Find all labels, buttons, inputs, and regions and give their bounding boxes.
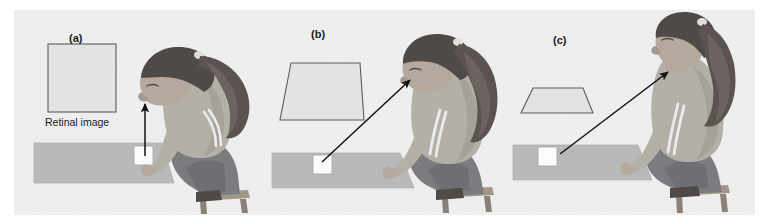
panel-label-c: (c) [553,34,566,46]
retinal-image-shape-c [521,88,593,113]
target-square-b [313,155,332,174]
foot-c [670,186,700,198]
figure-illustration [0,0,772,224]
foot-b [436,188,464,200]
panel-label-b: (b) [311,28,325,40]
stool-leg-left-a [200,201,207,214]
panel-label-a: (a) [69,32,82,44]
tabletop-c [513,145,652,180]
foot-a [196,190,222,202]
retinal-image-caption: Retinal image [45,116,109,128]
target-square-c [538,147,557,166]
retinal-image-shape-a [48,44,116,112]
stool-leg-left-c [676,196,683,213]
figure-container: (a) (b) (c) Retinal image [0,0,772,224]
retinal-image-shape-b [280,63,364,120]
stool-leg-left-b [442,198,449,213]
target-square-a [134,146,153,165]
